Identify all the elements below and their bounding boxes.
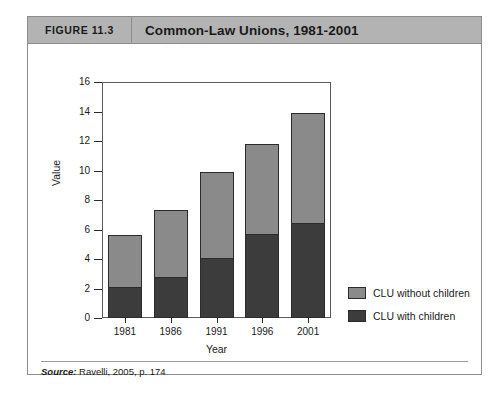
bar-segment-with-children: [245, 234, 279, 318]
x-axis-title: Year: [102, 343, 331, 355]
figure-title: Common-Law Unions, 1981-2001: [132, 23, 359, 38]
bar-column: [108, 235, 142, 318]
legend-swatch: [348, 287, 366, 299]
source-prefix: Source:: [41, 366, 76, 377]
y-axis-tick-label: 0: [62, 312, 90, 323]
x-axis-tick: [171, 318, 172, 323]
y-axis-tick: [94, 200, 102, 201]
legend-item: CLU without children: [348, 287, 470, 299]
legend-swatch: [348, 310, 366, 322]
chart-legend: CLU without childrenCLU with children: [348, 287, 470, 333]
x-axis-tick-label: 1991: [192, 326, 242, 337]
x-axis-tick-label: 1996: [237, 326, 287, 337]
x-axis-tick-label: 1986: [146, 326, 196, 337]
y-axis-tick: [94, 259, 102, 260]
y-axis-title: Value: [50, 160, 62, 186]
x-axis-tick-label: 1981: [100, 326, 150, 337]
bar-column: [154, 210, 188, 318]
y-axis-tick: [94, 318, 102, 319]
y-axis-tick-label: 6: [62, 224, 90, 235]
y-axis-tick-label: 14: [62, 106, 90, 117]
legend-label: CLU with children: [373, 310, 455, 322]
legend-label: CLU without children: [373, 287, 470, 299]
x-axis-tick-label: 2001: [283, 326, 333, 337]
y-axis-tick-label: 4: [62, 253, 90, 264]
bar-segment-with-children: [200, 258, 234, 318]
x-axis-tick: [125, 318, 126, 323]
source-text: Ravelli, 2005, p. 174: [79, 366, 166, 377]
bar-segment-without-children: [108, 235, 142, 288]
y-axis-tick-label: 2: [62, 283, 90, 294]
bar-column: [200, 172, 234, 318]
y-axis-tick-label: 10: [62, 165, 90, 176]
source-note: Source: Ravelli, 2005, p. 174: [41, 366, 166, 377]
y-axis-tick-label: 12: [62, 135, 90, 146]
bar-segment-with-children: [154, 277, 188, 318]
bar-segment-with-children: [291, 223, 325, 318]
y-axis-tick-label: 16: [62, 76, 90, 87]
figure-number-label: FIGURE 11.3: [28, 24, 131, 36]
y-axis-tick: [94, 141, 102, 142]
x-axis-tick: [262, 318, 263, 323]
y-axis-tick-label: 8: [62, 194, 90, 205]
bar-segment-without-children: [245, 144, 279, 235]
y-axis-tick: [94, 82, 102, 83]
bar-segment-without-children: [291, 113, 325, 224]
y-axis-tick: [94, 230, 102, 231]
bar-column: [291, 113, 325, 318]
source-divider: [41, 361, 468, 362]
bar-segment-without-children: [200, 172, 234, 259]
bar-segment-with-children: [108, 287, 142, 318]
y-axis-tick: [94, 289, 102, 290]
y-axis-tick: [94, 112, 102, 113]
figure-header: FIGURE 11.3 Common-Law Unions, 1981-2001: [28, 17, 481, 44]
x-axis-tick: [217, 318, 218, 323]
legend-item: CLU with children: [348, 310, 470, 322]
figure-container: FIGURE 11.3 Common-Law Unions, 1981-2001…: [27, 16, 482, 375]
bar-column: [245, 144, 279, 318]
chart-area: 0246810121416 Value 19811986199119962001…: [28, 44, 481, 374]
y-axis-tick: [94, 171, 102, 172]
x-axis-tick: [308, 318, 309, 323]
bar-segment-without-children: [154, 210, 188, 278]
